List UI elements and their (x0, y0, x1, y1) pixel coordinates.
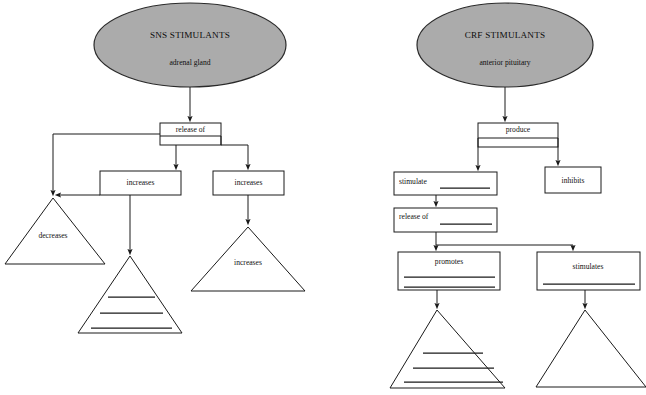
box-release-of-right[interactable]: release of (394, 208, 497, 232)
right-root-title: CRF STIMULANTS (465, 30, 546, 40)
left-root-title: SNS STIMULANTS (150, 30, 230, 40)
triangle-blank-right-left[interactable] (390, 310, 505, 388)
triangle-blank-right-right[interactable] (536, 310, 646, 387)
triangle-increases[interactable]: increases (191, 227, 305, 291)
box-inhibits[interactable]: inhibits (545, 167, 601, 193)
right-root-oval[interactable]: CRF STIMULANTS anterior pituitary (417, 3, 593, 87)
box-stimulate[interactable]: stimulate (394, 172, 497, 195)
left-root-subtitle: adrenal gland (169, 58, 210, 67)
box-increases-mid-label: increases (127, 178, 155, 187)
box-stimulates-label: stimulates (573, 262, 604, 271)
right-root-subtitle: anterior pituitary (479, 58, 530, 67)
triangle-increases-label: increases (234, 258, 262, 267)
box-release-of-left[interactable]: release of (160, 123, 221, 145)
box-produce[interactable]: produce (478, 123, 558, 147)
box-produce-label: produce (506, 125, 531, 134)
left-root-oval[interactable]: SNS STIMULANTS adrenal gland (94, 3, 286, 87)
triangle-decreases[interactable]: decreases (5, 198, 105, 264)
box-release-of-right-label: release of (399, 212, 429, 221)
right-branch-group: CRF STIMULANTS anterior pituitary produc… (390, 3, 646, 388)
box-increases-right-label: increases (235, 178, 263, 187)
box-stimulate-label: stimulate (399, 177, 427, 186)
box-stimulates[interactable]: stimulates (537, 252, 640, 290)
box-increases-mid[interactable]: increases (100, 171, 181, 195)
left-branch-group: SNS STIMULANTS adrenal gland release of … (5, 3, 305, 333)
triangle-blank-left[interactable] (78, 256, 182, 333)
triangle-decreases-label: decreases (38, 231, 67, 240)
connector-release-to-increases-right (221, 136, 248, 167)
connector-release-to-stimulates (436, 245, 573, 248)
box-increases-right[interactable]: increases (213, 171, 284, 195)
box-inhibits-label: inhibits (562, 176, 585, 185)
box-promotes[interactable]: promotes (398, 252, 500, 290)
concept-map-diagram: SNS STIMULANTS adrenal gland release of … (0, 0, 646, 395)
box-promotes-label: promotes (435, 257, 463, 266)
box-release-of-left-label: release of (176, 125, 206, 134)
